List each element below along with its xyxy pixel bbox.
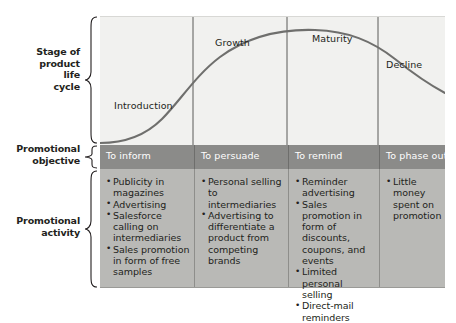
activity-cell-introduction: Publicity in magazinesAdvertisingSalesfo… [100,169,194,287]
activity-bullet: Limited personal selling [295,266,375,300]
objective-cell-introduction: To inform [100,145,194,169]
activity-cell-growth: Personal selling to intermediariesAdvert… [194,169,288,287]
row-label-promotional-objective: Promotionalobjective [2,143,80,166]
stage-label-growth: Growth [215,37,250,48]
row-label-stage-of-product-life-cycle: Stage ofproductlifecycle [2,46,80,92]
activity-cell-maturity: Reminder advertisingSales promotion in f… [288,169,379,287]
promotional-activity-row: Publicity in magazinesAdvertisingSalesfo… [100,169,445,288]
promotional-objective-row: To inform To persuade To remind To phase… [100,145,445,169]
life-cycle-curve-svg [100,17,445,145]
activity-bullet: Personal selling to intermediaries [201,176,284,210]
objective-cell-growth: To persuade [194,145,288,169]
row-label-line: activity [2,227,80,239]
brace-stage-icon [84,16,98,144]
row-label-line: cycle [2,81,80,93]
row-label-line: product [2,58,80,70]
activity-list: Little money spent on promotion [386,176,441,221]
activity-list: Personal selling to intermediariesAdvert… [201,176,284,266]
row-label-line: Promotional [2,215,80,227]
stage-label-decline: Decline [386,59,422,70]
objective-cell-maturity: To remind [288,145,379,169]
activity-list: Publicity in magazinesAdvertisingSalesfo… [106,176,190,278]
activity-bullet: Little money spent on promotion [386,176,441,221]
objective-cell-decline: To phase out [379,145,445,169]
activity-bullet: Direct-mail reminders [295,300,375,323]
diagram-panel: Introduction Growth Maturity Decline To … [100,16,445,288]
row-label-line: Stage of [2,46,80,58]
activity-bullet: Sales promotion in form of free samples [106,244,190,278]
activity-bullet: Advertising to differentiate a product f… [201,210,284,266]
row-label-line: life [2,69,80,81]
activity-bullet: Reminder advertising [295,176,375,199]
activity-bullet: Advertising [106,199,190,210]
row-label-line: objective [2,155,80,167]
row-label-line: Promotional [2,143,80,155]
activity-bullet: Sales promotion in form of discounts, co… [295,199,375,267]
product-life-cycle-curve [100,30,445,143]
brace-objective-icon [84,145,98,169]
product-life-cycle-chart: Introduction Growth Maturity Decline [100,16,445,145]
activity-cell-decline: Little money spent on promotion [379,169,445,287]
stage-label-introduction: Introduction [114,100,173,111]
activity-bullet: Publicity in magazines [106,176,190,199]
row-label-promotional-activity: Promotionalactivity [2,215,80,238]
activity-list: Reminder advertisingSales promotion in f… [295,176,375,323]
activity-bullet: Salesforce calling on intermediaries [106,210,190,244]
stage-label-maturity: Maturity [312,33,352,44]
brace-activity-icon [84,170,98,288]
